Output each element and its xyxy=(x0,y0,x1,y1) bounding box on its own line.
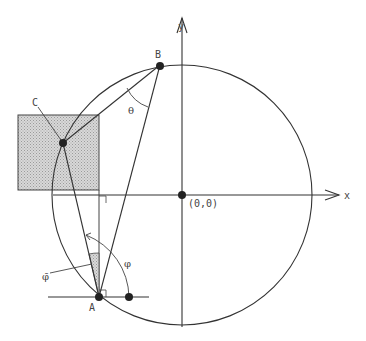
label-c: C xyxy=(32,97,38,108)
label-origin: (0,0) xyxy=(188,198,218,209)
right-angle-marker-top xyxy=(99,196,106,203)
label-x-axis: x xyxy=(344,190,350,201)
label-phi-bar: φ̄ xyxy=(42,271,49,282)
label-theta: θ xyxy=(128,105,134,116)
label-phi: φ xyxy=(124,258,131,269)
label-a: A xyxy=(89,302,95,313)
point-b xyxy=(156,62,164,70)
geometry-diagram: B C A θ φ φ̄ y x (0,0) xyxy=(0,0,366,341)
label-b: B xyxy=(155,49,161,60)
point-tangent xyxy=(125,293,133,301)
point-a xyxy=(95,293,103,301)
shaded-rectangle xyxy=(18,115,99,190)
point-c xyxy=(59,139,67,147)
point-origin xyxy=(178,191,186,199)
line-c-b xyxy=(63,65,160,143)
phi-bar-pointer xyxy=(50,264,92,273)
label-y-axis: y xyxy=(178,21,184,32)
